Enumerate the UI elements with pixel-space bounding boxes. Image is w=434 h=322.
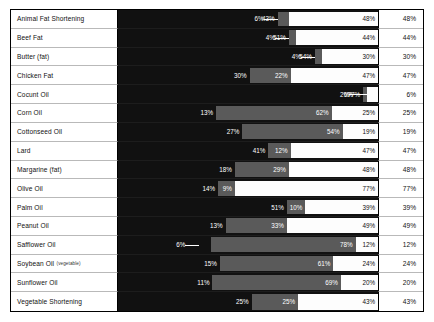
bar-segment-mono-unsaturated: 4% — [289, 30, 296, 45]
label-leader-line — [185, 245, 199, 246]
bar-segment-saturated-label: 13% — [210, 222, 226, 229]
bar-segment-saturated: 6% — [199, 237, 210, 252]
bar-segment-saturated: 27% — [192, 124, 242, 139]
row-value-cell: 24% — [378, 255, 423, 274]
stacked-bar: 54%4%30% — [118, 49, 378, 64]
bar-segment-saturated: 30% — [194, 68, 250, 83]
stacked-bar: 13%33%49% — [118, 218, 378, 233]
table-row: Olive Oil14%9%77%77% — [11, 179, 423, 198]
row-label-cell: Corn Oil — [11, 104, 118, 123]
bar-segment-mono-unsaturated: 78% — [211, 237, 356, 252]
row-value: 48% — [403, 15, 416, 22]
row-value-cell: 30% — [378, 48, 423, 67]
bar-segment-saturated-label: 15% — [204, 260, 220, 267]
row-value: 47% — [403, 72, 416, 79]
table-row: Peanut Oil13%33%49%49% — [11, 217, 423, 236]
row-value-cell: 44% — [378, 29, 423, 48]
bar-segment-saturated: 18% — [201, 162, 234, 177]
bar-segment-poly-unsaturated-label: 19% — [362, 128, 378, 135]
row-bar-cell: 43%6%48% — [118, 10, 378, 29]
bar-segment-poly-unsaturated: 6% — [367, 87, 378, 102]
row-value: 47% — [403, 147, 416, 154]
stacked-bar: 6%78%12% — [118, 237, 378, 252]
row-label: Chicken Fat — [17, 72, 53, 79]
row-value-cell: 48% — [378, 10, 423, 29]
bar-segment-mono-unsaturated-label: 61% — [318, 260, 334, 267]
row-value-cell: 20% — [378, 273, 423, 292]
row-value-cell: 6% — [378, 85, 423, 104]
row-value-cell: 48% — [378, 161, 423, 180]
row-label-cell: Safflower Oil — [11, 236, 118, 255]
row-label-cell: Vegetable Shortening — [11, 292, 118, 311]
bar-segment-poly-unsaturated-label: 30% — [362, 53, 378, 60]
table-row: Sunflower Oil11%69%20%20% — [11, 273, 423, 292]
bar-segment-poly-unsaturated-label: 25% — [362, 109, 378, 116]
stacked-bar: 13%62%25% — [118, 106, 378, 121]
stacked-bar: 27%54%19% — [118, 124, 378, 139]
bar-segment-mono-unsaturated: 62% — [216, 106, 331, 121]
bar-segment-poly-unsaturated-label: 49% — [362, 222, 378, 229]
bar-segment-mono-unsaturated-label: 4% — [266, 34, 277, 41]
bar-segment-saturated: 13% — [192, 106, 216, 121]
row-bar-cell: 6%78%12% — [118, 236, 378, 255]
label-leader-line — [301, 57, 315, 58]
table-row: Butter (fat)54%4%30%30% — [11, 48, 423, 67]
bar-segment-poly-unsaturated-label: 12% — [362, 241, 378, 248]
row-value-cell: 19% — [378, 123, 423, 142]
row-value-cell: 47% — [378, 142, 423, 161]
row-value: 24% — [403, 260, 416, 267]
bar-segment-mono-unsaturated: 25% — [252, 294, 299, 310]
row-value: 20% — [403, 279, 416, 286]
bar-segment-mono-unsaturated-label: 69% — [325, 279, 341, 286]
stacked-bar: 25%25%43% — [118, 294, 378, 310]
label-leader-line — [275, 38, 289, 39]
row-label: Soybean Oil — [17, 260, 54, 267]
row-label: Butter (fat) — [17, 53, 49, 60]
row-label: Corn Oil — [17, 109, 42, 116]
row-bar-cell: 13%33%49% — [118, 217, 378, 236]
row-label-cell: Cottonseed Oil — [11, 123, 118, 142]
row-bar-cell: 54%4%30% — [118, 48, 378, 67]
bar-segment-poly-unsaturated-label: 44% — [362, 34, 378, 41]
bar-segment-poly-unsaturated-label: 48% — [362, 15, 378, 22]
bar-segment-mono-unsaturated-label: 62% — [316, 109, 332, 116]
bar-segment-poly-unsaturated-label: 47% — [362, 147, 378, 154]
table-row: Animal Fat Shortening43%6%48%48% — [11, 10, 423, 29]
bar-segment-mono-unsaturated-label: 78% — [340, 241, 356, 248]
bar-segment-poly-unsaturated-label: 43% — [362, 298, 378, 305]
row-value: 19% — [403, 128, 416, 135]
row-label: Vegetable Shortening — [17, 298, 82, 305]
bar-segment-saturated: 15% — [192, 256, 220, 271]
bar-segment-mono-unsaturated-label: 6% — [254, 15, 265, 22]
stacked-bar: 41%12%47% — [118, 143, 378, 158]
row-label-cell: Palm Oil — [11, 198, 118, 217]
row-bar-cell: 18%29%48% — [118, 161, 378, 180]
row-bar-cell: 41%12%47% — [118, 142, 378, 161]
table-row: Chicken Fat30%22%47%47% — [11, 66, 423, 85]
table-row: Vegetable Shortening25%25%43%43% — [11, 292, 423, 311]
row-value: 44% — [403, 34, 416, 41]
row-bar-cell: 15%61%24% — [118, 255, 378, 274]
bar-segment-mono-unsaturated-label: 54% — [327, 128, 343, 135]
stacked-bar: 15%61%24% — [118, 256, 378, 271]
row-label: Sunflower Oil — [17, 279, 58, 286]
bar-segment-mono-unsaturated: 69% — [212, 275, 340, 290]
bar-segment-poly-unsaturated-label: 24% — [362, 260, 378, 267]
bar-segment-saturated: 51% — [192, 200, 287, 215]
bar-segment-mono-unsaturated: 22% — [250, 68, 291, 83]
bar-segment-saturated-label: 30% — [234, 72, 250, 79]
bar-segment-poly-unsaturated: 44% — [296, 30, 378, 45]
row-value-cell: 47% — [378, 66, 423, 85]
bar-segment-poly-unsaturated: 48% — [289, 12, 378, 27]
bar-segment-poly-unsaturated: 30% — [322, 49, 378, 64]
bar-segment-saturated: 25% — [205, 294, 252, 310]
row-value: 12% — [403, 241, 416, 248]
bar-segment-poly-unsaturated-label: 20% — [362, 279, 378, 286]
row-value: 6% — [406, 91, 416, 98]
row-label-cell: Soybean Oil(vegetable) — [11, 255, 118, 274]
bar-segment-poly-unsaturated: 19% — [343, 124, 378, 139]
stacked-bar: 51%10%39% — [118, 200, 378, 215]
row-bar-cell: 77%2%6% — [118, 85, 378, 104]
row-label: Palm Oil — [17, 204, 43, 211]
bar-segment-mono-unsaturated: 61% — [220, 256, 333, 271]
